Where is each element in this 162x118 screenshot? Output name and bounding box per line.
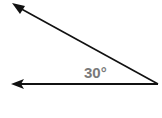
upper-arrowhead-icon <box>12 3 25 14</box>
angle-diagram <box>0 0 162 118</box>
angle-label: 30° <box>84 64 107 81</box>
